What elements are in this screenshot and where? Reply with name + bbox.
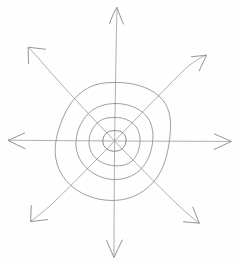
sketch-canvas <box>0 0 238 264</box>
arrow-west-head <box>8 133 25 149</box>
arrow-southeast-head <box>184 207 200 223</box>
arrow-west <box>8 133 115 149</box>
sketch-svg <box>0 0 238 264</box>
arrow-south <box>107 141 123 258</box>
arrow-south-shaft <box>114 141 115 256</box>
radial-arrow-group <box>8 7 231 257</box>
arrow-south-head <box>107 240 123 258</box>
arrow-southwest-shaft <box>31 141 115 221</box>
arrow-northwest-shaft <box>29 48 115 141</box>
arrow-northwest <box>28 47 114 141</box>
arrow-north <box>110 7 124 141</box>
arrow-east <box>115 134 232 149</box>
arrow-southwest <box>31 141 115 222</box>
arrow-southeast <box>115 141 200 223</box>
arrow-northeast-head <box>192 55 207 71</box>
arrow-southeast-shaft <box>115 141 199 223</box>
arrow-north-shaft <box>115 9 117 141</box>
arrow-west-shaft <box>9 140 115 141</box>
arrow-northeast-shaft <box>115 55 206 141</box>
